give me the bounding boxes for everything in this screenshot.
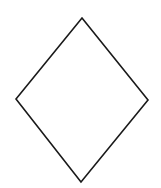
rhombus-shape <box>16 18 148 182</box>
rhombus-figure <box>0 0 161 188</box>
diagram-canvas <box>0 0 161 188</box>
